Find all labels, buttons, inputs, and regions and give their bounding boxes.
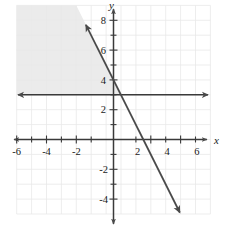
y-axis-label: y <box>108 0 114 11</box>
x-tick-label: 4 <box>164 146 170 157</box>
x-tick-label: -2 <box>72 146 81 157</box>
graph-canvas: -6 -4 -2 2 4 6 8 6 4 2 -2 -4 x y <box>0 0 227 233</box>
y-tick-label: -2 <box>99 164 108 175</box>
y-tick-label: 6 <box>101 45 106 56</box>
y-tick-label: 2 <box>101 104 106 115</box>
y-tick-label: 8 <box>101 15 106 26</box>
x-tick-label: 6 <box>194 146 199 157</box>
y-tick-label: -4 <box>99 194 108 205</box>
x-tick-label: -6 <box>12 146 21 157</box>
coordinate-plane-figure: -6 -4 -2 2 4 6 8 6 4 2 -2 -4 x y <box>0 0 227 233</box>
y-tick-label: 4 <box>101 75 107 86</box>
x-tick-label: -4 <box>42 146 51 157</box>
x-axis-label: x <box>213 134 219 146</box>
x-tick-label: 2 <box>135 146 140 157</box>
